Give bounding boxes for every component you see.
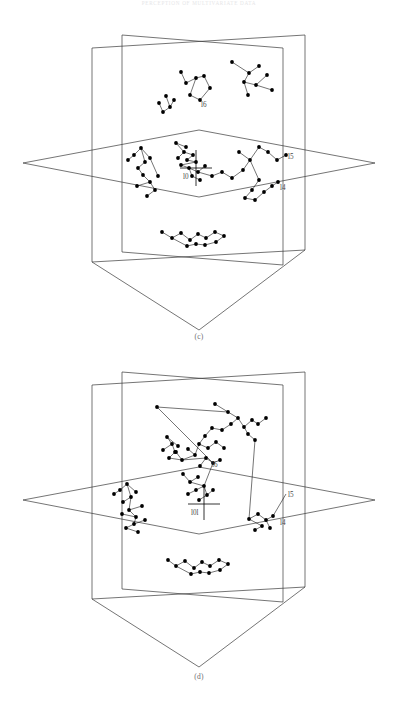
panel-d-caption: (d) (0, 672, 398, 681)
data-point (246, 93, 250, 97)
data-point (161, 448, 165, 452)
data-point (243, 196, 247, 200)
data-point (176, 156, 180, 160)
data-edge (256, 85, 272, 90)
figure-page: PERCEPTION OF MULTIVARIATE DATA l6l5l4l0… (0, 0, 398, 703)
data-point (210, 426, 214, 430)
data-point (250, 418, 254, 422)
data-point (271, 514, 275, 518)
data-point (217, 558, 221, 562)
data-point (191, 153, 195, 157)
data-point (262, 190, 266, 194)
data-point (161, 110, 165, 114)
data-point (241, 168, 245, 172)
data-edge (150, 158, 158, 176)
panel-c-points (126, 60, 288, 248)
data-point (173, 450, 177, 454)
data-point (179, 163, 183, 167)
panel-d-axis-label-1: l5 (288, 491, 294, 499)
data-point (140, 504, 144, 508)
data-point (194, 76, 198, 80)
data-point (213, 230, 217, 234)
panel-d-edges (114, 404, 286, 574)
data-point (257, 64, 261, 68)
data-point (200, 560, 204, 564)
data-point (165, 435, 169, 439)
data-edge (181, 162, 196, 165)
data-point (132, 522, 136, 526)
data-point (125, 482, 129, 486)
panel-d-points (112, 402, 275, 576)
data-point (206, 446, 210, 450)
data-point (203, 434, 207, 438)
data-point (182, 150, 186, 154)
data-point (180, 458, 184, 462)
data-point (148, 156, 152, 160)
data-point (211, 488, 215, 492)
data-point (242, 425, 246, 429)
data-edge (169, 458, 182, 460)
data-point (176, 444, 180, 448)
data-point (196, 475, 200, 479)
data-edge (129, 506, 142, 510)
data-edge (215, 404, 228, 412)
data-edge (157, 407, 228, 412)
data-point (198, 570, 202, 574)
data-point (185, 244, 189, 248)
data-point (247, 71, 251, 75)
data-point (167, 456, 171, 460)
data-point (194, 488, 198, 492)
data-point (179, 70, 183, 74)
data-point (213, 402, 217, 406)
data-point (135, 184, 139, 188)
data-point (250, 188, 254, 192)
data-edge (239, 152, 250, 160)
data-point (229, 422, 233, 426)
data-point (214, 440, 218, 444)
data-edge (232, 170, 243, 178)
data-point (275, 158, 279, 162)
data-point (246, 432, 250, 436)
panel-c-back-vertical-plane (92, 35, 305, 262)
data-point (226, 410, 230, 414)
data-point (198, 178, 202, 182)
data-point (226, 562, 230, 566)
data-point (136, 166, 140, 170)
data-point (118, 488, 122, 492)
panel-d-plane-crossing-line-2 (199, 587, 305, 667)
panel-c-axis-label-0: l6 (201, 101, 207, 109)
data-point (126, 158, 130, 162)
data-point (170, 442, 174, 446)
data-point (260, 524, 264, 528)
data-point (196, 232, 200, 236)
data-point (153, 188, 157, 192)
data-edge (172, 238, 187, 246)
panel-c-edges (128, 62, 286, 246)
data-point (132, 153, 136, 157)
data-point (197, 498, 201, 502)
data-edge (250, 147, 259, 160)
data-point (202, 74, 206, 78)
data-point (254, 83, 258, 87)
data-point (207, 571, 211, 575)
data-edge (249, 440, 255, 519)
figure-panel-d: l6l5l4l0l (0, 352, 398, 697)
panel-d-axis-label-0: l6 (212, 461, 218, 469)
data-point (141, 173, 145, 177)
data-point (120, 512, 124, 516)
data-edge (200, 88, 210, 100)
data-edge (250, 160, 259, 180)
data-point (121, 500, 125, 504)
data-point (266, 150, 270, 154)
data-point (143, 160, 147, 164)
panel-d-plane-crossing-line-1 (92, 599, 199, 667)
data-point (218, 458, 222, 462)
data-edge (198, 172, 212, 176)
data-edge (176, 566, 191, 574)
data-point (253, 528, 257, 532)
data-point (188, 93, 192, 97)
data-point (186, 492, 190, 496)
data-point (174, 564, 178, 568)
panel-c-group: l6l5l4l0 (23, 35, 375, 330)
data-point (256, 422, 260, 426)
